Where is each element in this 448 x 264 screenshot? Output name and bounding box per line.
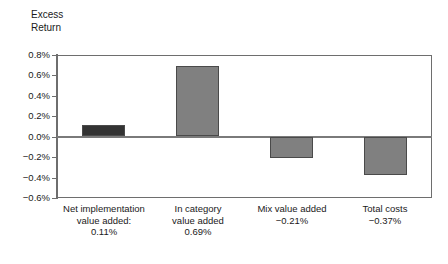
y-axis-tick-mark — [52, 116, 57, 117]
bar — [176, 66, 219, 136]
category-label: Total costs −0.37% — [338, 203, 432, 226]
bar — [364, 137, 407, 175]
y-axis-tick-label: −0.6% — [2, 193, 50, 203]
y-axis-tick-labels: 0.8%0.6%0.4%0.2%0.0%−0.2%−0.4%−0.6% — [0, 0, 50, 264]
y-axis-tick-mark — [52, 198, 57, 199]
category-label: Net implementation value added: 0.11% — [57, 203, 151, 238]
bar — [82, 125, 125, 136]
y-axis-tick-label: 0.0% — [2, 132, 50, 142]
y-axis-tick-mark — [52, 96, 57, 97]
y-axis-tick-mark — [52, 178, 57, 179]
y-axis-tick-label: −0.2% — [2, 152, 50, 162]
bar — [270, 137, 313, 158]
category-label: Mix value added −0.21% — [245, 203, 339, 226]
y-axis-tick-mark — [52, 157, 57, 158]
y-axis-tick-label: 0.4% — [2, 91, 50, 101]
y-axis-tick-label: 0.8% — [2, 50, 50, 60]
y-axis-tick-mark — [52, 55, 57, 56]
y-axis-tick-label: 0.6% — [2, 70, 50, 80]
y-axis-tick-mark — [52, 137, 57, 138]
y-axis-tick-mark — [52, 75, 57, 76]
category-label: In category value added 0.69% — [151, 203, 245, 238]
y-axis-tick-label: 0.2% — [2, 111, 50, 121]
y-axis-tick-label: −0.4% — [2, 173, 50, 183]
